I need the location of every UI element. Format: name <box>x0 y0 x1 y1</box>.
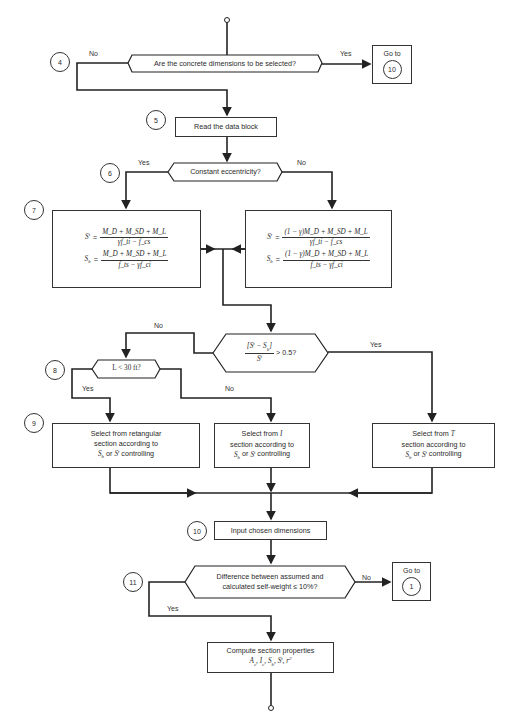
decision-self-weight: Difference between assumed and calculate… <box>195 566 345 598</box>
box-line: Sb or St controlling <box>98 449 154 462</box>
step-9-marker: 9 <box>24 413 44 433</box>
equation-st: St= M_D + M_SD + M_Lγf_ti − f_cs <box>85 228 168 248</box>
box-line: Sb or St controlling <box>405 449 461 462</box>
step-5-marker: 5 <box>146 110 166 130</box>
equation-sb: Sb= M_D + M_SD + M_Lf_ts − γf_ci <box>85 250 169 270</box>
denominator: f_ts − γf_ci <box>308 261 344 271</box>
box-line: section according to <box>402 440 466 450</box>
read-data-block-box: Read the data block <box>175 117 277 137</box>
step-7-marker: 7 <box>24 200 44 220</box>
step-8-marker: 8 <box>45 360 65 380</box>
ratio-threshold: > 0.5? <box>276 348 296 358</box>
box-line: Compute section properties <box>227 646 315 656</box>
denominator: f_ts − γf_ci <box>116 261 152 271</box>
goto-label: Go to <box>403 566 420 575</box>
no-label: No <box>154 322 163 329</box>
select-rectangular-box: Select from retangular section according… <box>52 423 200 468</box>
decision-line: Difference between assumed and <box>217 572 324 582</box>
numerator: (1 − γ)M_D + M_SD + M_L <box>283 250 370 261</box>
denominator: γf_ti − f_cs <box>116 238 152 248</box>
yes-label: Yes <box>340 50 351 57</box>
box-line: Select from I <box>242 429 283 440</box>
decision-span-length: L < 30 ft? <box>98 360 155 378</box>
goto-target-marker: 1 <box>402 577 421 596</box>
yes-label: Yes <box>138 159 149 166</box>
decision-line: calculated self-weight ≤ 10%? <box>222 582 317 592</box>
box-line: section according to <box>230 440 294 450</box>
box-line: section according to <box>94 439 158 449</box>
denominator: γf_ti − f_cs <box>308 238 344 248</box>
goto-target-marker: 10 <box>383 60 402 79</box>
select-t-section-box: Select from T section according to Sb or… <box>372 423 495 468</box>
compute-section-properties-box: Compute section properties Ac, Ic, Sb, S… <box>207 642 334 673</box>
box-line: Sb or St controlling <box>234 449 290 462</box>
step-4-marker: 4 <box>50 52 70 72</box>
no-label: No <box>89 50 98 57</box>
numerator: M_D + M_SD + M_L <box>100 228 168 239</box>
goto-label: Go to <box>383 49 400 58</box>
select-i-section-box: Select from I section according to Sb or… <box>214 423 310 468</box>
step-10-marker: 10 <box>187 521 207 541</box>
box-line: Select from T <box>412 429 454 440</box>
equation-st: St= (1 − γ)M_D + M_SD + M_Lγf_ti − f_cs <box>267 228 369 248</box>
no-label: No <box>225 385 234 392</box>
equations-variable-box: St= (1 − γ)M_D + M_SD + M_Lγf_ti − f_cs … <box>245 210 392 288</box>
no-label: No <box>297 159 306 166</box>
decision-section-ratio: [St − Sb]St > 0.5? <box>226 334 315 372</box>
yes-label: Yes <box>82 385 93 392</box>
step-6-marker: 6 <box>100 163 120 183</box>
decision-constant-eccentricity: Constant eccentricity? <box>174 163 277 181</box>
decision-select-dimensions: Are the concrete dimensions to be select… <box>132 55 318 72</box>
box-line: Select from retangular <box>91 429 162 439</box>
input-chosen-dimensions-box: Input chosen dimensions <box>214 521 327 540</box>
equation-sb: Sb= (1 − γ)M_D + M_SD + M_Lf_ts − γf_ci <box>267 250 371 270</box>
goto-1-box: Go to 1 <box>392 562 431 601</box>
step-11-marker: 11 <box>123 572 143 592</box>
numerator: (1 − γ)M_D + M_SD + M_L <box>282 228 369 239</box>
yes-label: Yes <box>370 341 381 348</box>
no-label: No <box>362 574 371 581</box>
numerator: M_D + M_SD + M_L <box>101 250 169 261</box>
yes-label: Yes <box>167 605 178 612</box>
equations-constant-box: St= M_D + M_SD + M_Lγf_ti − f_cs Sb= M_D… <box>52 210 201 288</box>
goto-10-box: Go to 10 <box>372 45 412 84</box>
section-properties-list: Ac, Ic, Sb, St, r2 <box>249 656 291 669</box>
